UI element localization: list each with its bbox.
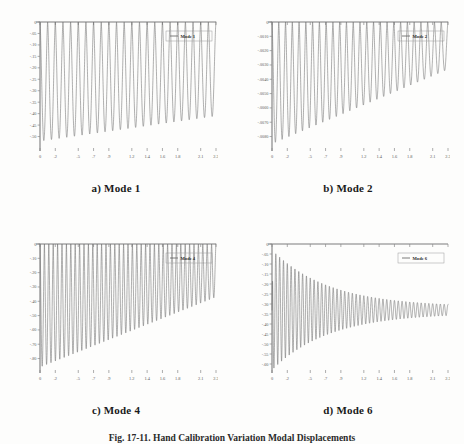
y-tick-label: -.80 bbox=[30, 356, 37, 361]
x-tick-label: 2.3 bbox=[445, 376, 450, 381]
x-tick-label: 0 bbox=[271, 376, 274, 381]
x-tick-label: .5 bbox=[309, 376, 313, 381]
x-tick-label: .2 bbox=[54, 376, 57, 381]
chart-mode-2: 0-.0010-.0020-.0030-.0040-.0050-.0060-.0… bbox=[246, 14, 450, 170]
x-tick-label: 1.8 bbox=[175, 154, 181, 159]
x-tick-label: .9 bbox=[107, 376, 111, 381]
x-tick-label: .2 bbox=[286, 154, 289, 159]
y-tick-label: -.05 bbox=[30, 31, 37, 36]
y-tick-label: -.0040 bbox=[258, 77, 269, 82]
y-tick-label: -.20 bbox=[262, 282, 269, 287]
y-tick-label: -.70 bbox=[30, 342, 37, 347]
legend: Mode 6 bbox=[398, 253, 444, 263]
x-tick-label: 2.1 bbox=[430, 376, 436, 381]
panel-caption-mode-1: a) Mode 1 bbox=[0, 182, 232, 194]
y-tick-label: 0 bbox=[34, 242, 36, 247]
legend-label: Mode 2 bbox=[413, 34, 428, 39]
series-line-mode-6 bbox=[272, 254, 448, 368]
y-tick-label: -.0020 bbox=[258, 48, 269, 53]
y-tick-label: -.35 bbox=[30, 100, 37, 105]
y-tick-label: -.10 bbox=[30, 42, 37, 47]
x-tick-label: 1.4 bbox=[376, 154, 382, 159]
y-tick-label: -.0060 bbox=[258, 105, 269, 110]
y-tick-label: -.15 bbox=[262, 272, 269, 277]
panel-caption-mode-6: d) Mode 6 bbox=[232, 404, 464, 416]
panel-mode-1: 0-.05-.10-.15-.20-.25-.30-.35-.40-.45-.5… bbox=[0, 0, 232, 222]
x-tick-label: 1.6 bbox=[392, 376, 398, 381]
y-tick-label: -.0030 bbox=[258, 62, 269, 67]
figure-root: 0-.05-.10-.15-.20-.25-.30-.35-.40-.45-.5… bbox=[0, 0, 464, 444]
x-tick-label: .7 bbox=[324, 376, 328, 381]
y-tick-label: -.0010 bbox=[258, 34, 269, 39]
x-tick-label: 1.4 bbox=[144, 376, 150, 381]
x-tick-label: 1.2 bbox=[129, 376, 135, 381]
y-tick-label: -.05 bbox=[262, 252, 269, 257]
x-tick-label: .9 bbox=[339, 376, 343, 381]
x-tick-label: 1.8 bbox=[407, 154, 413, 159]
x-tick-label: 2.3 bbox=[213, 154, 218, 159]
y-tick-label: -.40 bbox=[262, 322, 269, 327]
x-tick-label: 1.8 bbox=[175, 376, 181, 381]
x-tick-label: 1.2 bbox=[361, 154, 367, 159]
y-tick-label: -.40 bbox=[30, 111, 37, 116]
y-tick-label: 0 bbox=[266, 242, 268, 247]
y-tick-label: -.15 bbox=[30, 54, 37, 59]
y-tick-label: -.50 bbox=[30, 134, 37, 139]
x-tick-label: .7 bbox=[324, 154, 328, 159]
series-line-mode-1 bbox=[40, 22, 216, 141]
x-tick-label: 1.2 bbox=[361, 376, 367, 381]
x-tick-label: .2 bbox=[54, 154, 57, 159]
y-tick-label: 0 bbox=[34, 20, 36, 25]
x-tick-label: 2.1 bbox=[430, 154, 436, 159]
y-tick-label: -.0050 bbox=[258, 91, 269, 96]
y-tick-label: -.60 bbox=[30, 327, 37, 332]
x-tick-label: 2.1 bbox=[198, 376, 204, 381]
x-tick-label: .9 bbox=[339, 154, 343, 159]
series-line-mode-2 bbox=[272, 22, 448, 142]
x-tick-label: 1.4 bbox=[376, 376, 382, 381]
y-tick-label: 0 bbox=[266, 20, 268, 25]
chart-mode-6: 0-.05-.10-.15-.20-.25-.30-.35-.40-.45-.5… bbox=[246, 236, 450, 392]
plot-area-mode-2: 0-.0010-.0020-.0030-.0040-.0050-.0060-.0… bbox=[246, 14, 450, 170]
chart-mode-1: 0-.05-.10-.15-.20-.25-.30-.35-.40-.45-.5… bbox=[14, 14, 218, 170]
chart-mode-4: 0-.10-.20-.30-.40-.50-.60-.70-.800.2.5.7… bbox=[14, 236, 218, 392]
plot-area-mode-4: 0-.10-.20-.30-.40-.50-.60-.70-.800.2.5.7… bbox=[14, 236, 218, 392]
x-tick-label: .7 bbox=[92, 376, 96, 381]
y-tick-label: -.50 bbox=[30, 313, 37, 318]
y-tick-label: -.30 bbox=[30, 88, 37, 93]
x-tick-label: 1.4 bbox=[144, 154, 150, 159]
x-tick-label: .5 bbox=[309, 154, 313, 159]
x-tick-label: 1.2 bbox=[129, 154, 135, 159]
plot-area-mode-6: 0-.05-.10-.15-.20-.25-.30-.35-.40-.45-.5… bbox=[246, 236, 450, 392]
legend-label: Mode 4 bbox=[181, 256, 196, 261]
y-tick-label: -.25 bbox=[262, 292, 269, 297]
y-tick-label: -.10 bbox=[262, 262, 269, 267]
y-tick-label: -.30 bbox=[30, 284, 37, 289]
x-tick-label: .9 bbox=[107, 154, 111, 159]
legend: Mode 2 bbox=[398, 31, 444, 41]
legend-label: Mode 1 bbox=[181, 34, 196, 39]
y-tick-label: -.25 bbox=[30, 77, 37, 82]
y-tick-label: -.10 bbox=[30, 256, 37, 261]
x-tick-label: 0 bbox=[39, 154, 42, 159]
legend-label: Mode 6 bbox=[413, 256, 428, 261]
panel-mode-6: 0-.05-.10-.15-.20-.25-.30-.35-.40-.45-.5… bbox=[232, 222, 464, 444]
x-tick-label: .2 bbox=[286, 376, 289, 381]
x-tick-label: 1.6 bbox=[160, 154, 166, 159]
y-tick-label: -.0080 bbox=[258, 134, 269, 139]
x-tick-label: .5 bbox=[77, 154, 81, 159]
y-tick-label: -.20 bbox=[30, 65, 37, 70]
y-tick-label: -.45 bbox=[262, 332, 269, 337]
figure-caption: Fig. 17-11. Hand Calibration Variation M… bbox=[0, 433, 464, 444]
x-tick-label: 1.8 bbox=[407, 376, 413, 381]
x-tick-label: 2.1 bbox=[198, 154, 204, 159]
x-tick-label: 1.6 bbox=[160, 376, 166, 381]
x-tick-label: 1.6 bbox=[392, 154, 398, 159]
y-tick-label: -.0070 bbox=[258, 120, 269, 125]
y-tick-label: -.55 bbox=[262, 352, 269, 357]
x-tick-label: .7 bbox=[92, 154, 96, 159]
y-tick-label: -.40 bbox=[30, 299, 37, 304]
panel-caption-mode-2: b) Mode 2 bbox=[232, 182, 464, 194]
panel-mode-4: 0-.10-.20-.30-.40-.50-.60-.70-.800.2.5.7… bbox=[0, 222, 232, 444]
x-tick-label: .5 bbox=[77, 376, 81, 381]
